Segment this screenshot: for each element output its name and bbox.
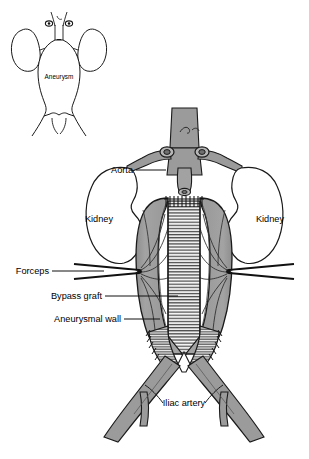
label-aneurysmal-wall: Aneurysmal wall <box>54 314 121 324</box>
ima-ostium-lumen <box>182 191 187 194</box>
figure-canvas: Aneurysm <box>0 0 309 459</box>
forceps-right-tip <box>226 269 231 274</box>
label-aorta: Aorta <box>111 165 134 175</box>
forceps-left-tip <box>137 269 142 274</box>
label-forceps: Forceps <box>16 266 50 276</box>
inset-kidney-left <box>11 29 40 71</box>
bypass-graft-body <box>168 201 200 356</box>
renal-ostium-right <box>195 147 209 157</box>
label-bypass-graft: Bypass graft <box>51 291 103 301</box>
inset-renal-ostium-right-lumen <box>68 22 71 25</box>
inset-aneurysm-label: Aneurysm <box>45 73 74 81</box>
inset-kidney-right <box>78 29 107 71</box>
renal-ostium-left <box>160 147 174 157</box>
label-kidney-left: Kidney <box>85 214 113 224</box>
label-kidney-right: Kidney <box>256 214 284 224</box>
medical-illustration: Aneurysm <box>0 0 309 459</box>
label-iliac-artery: Iliac artery <box>163 398 206 408</box>
inferior-mesenteric-artery-stump <box>177 168 191 191</box>
inset-renal-ostium-left-lumen <box>48 22 51 25</box>
